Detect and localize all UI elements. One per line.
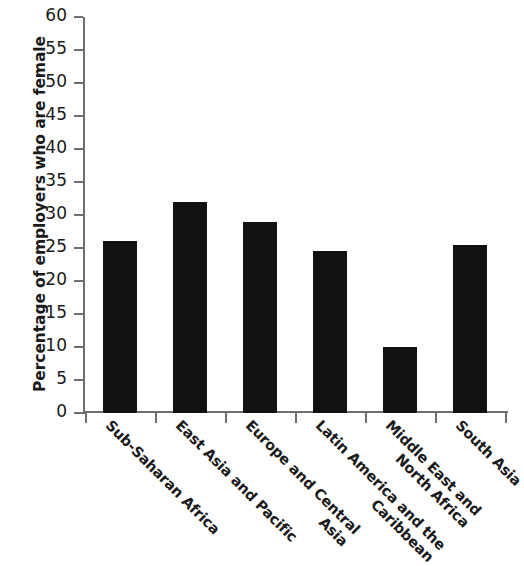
y-axis-tick-label: 45	[27, 104, 67, 124]
y-axis-tick: 55	[74, 49, 83, 51]
y-axis-tick-label: 20	[27, 269, 67, 289]
y-axis-tick: 60	[74, 16, 83, 18]
x-axis-category-label: Sub-Saharan Africa	[102, 417, 223, 538]
y-axis-tick-label: 55	[27, 38, 67, 58]
y-axis-tick: 50	[74, 82, 83, 84]
y-axis-tick-label: 40	[27, 137, 67, 157]
y-axis-tick: 45	[74, 115, 83, 117]
y-axis-tick: 20	[74, 280, 83, 282]
x-axis-category-label-line: South Asia	[453, 417, 524, 489]
bar	[313, 251, 347, 413]
y-axis-tick-label: 25	[27, 236, 67, 256]
x-axis-category-label-line: Sub-Saharan Africa	[103, 417, 223, 537]
bar	[173, 202, 207, 413]
y-axis-tick-label: 15	[27, 302, 67, 322]
bar	[243, 222, 277, 413]
y-axis-tick-label: 5	[27, 368, 67, 388]
y-axis-tick: 30	[74, 214, 83, 216]
y-axis-line	[83, 17, 85, 414]
y-axis-tick-label: 0	[27, 401, 67, 421]
y-axis-tick-label: 35	[27, 170, 67, 190]
y-axis-tick: 10	[74, 346, 83, 348]
y-axis-tick-label: 60	[27, 5, 67, 25]
x-axis-category-labels: Sub-Saharan AfricaEast Asia and PacificE…	[83, 417, 511, 559]
bar	[453, 245, 487, 413]
y-axis-tick: 5	[74, 379, 83, 381]
bar	[383, 347, 417, 413]
plot-area: 605550454035302520151050	[83, 17, 508, 413]
y-axis-tick: 15	[74, 313, 83, 315]
y-axis-tick: 40	[74, 148, 83, 150]
y-axis-tick-label: 50	[27, 71, 67, 91]
y-axis-tick-label: 10	[27, 335, 67, 355]
y-axis-tick-label: 30	[27, 203, 67, 223]
y-axis-tick: 35	[74, 181, 83, 183]
y-axis-tick: 25	[74, 247, 83, 249]
bar	[103, 241, 137, 413]
x-axis-category-label: South Asia	[452, 417, 524, 490]
y-axis-tick: 0	[74, 412, 83, 414]
